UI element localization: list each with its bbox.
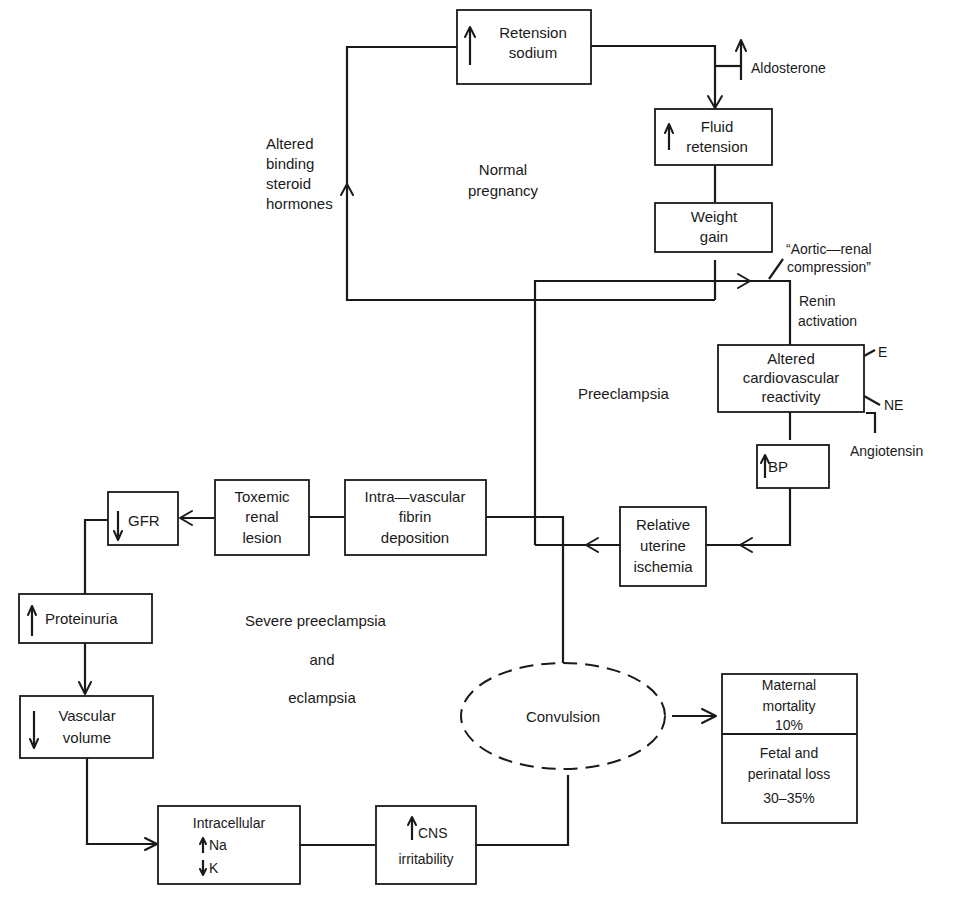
node-fibrin-deposition: Intra—vascular fibrin deposition	[345, 480, 486, 555]
e-label: E	[878, 344, 887, 360]
svg-text:ischemia: ischemia	[633, 558, 693, 575]
svg-text:Vascular: Vascular	[58, 707, 115, 724]
aortic-renal-label: “Aortic—renal	[786, 241, 872, 257]
node-intracellular: Intracellular Na K	[158, 806, 300, 884]
svg-text:10%: 10%	[775, 717, 803, 733]
svg-text:Intracellular: Intracellular	[193, 815, 266, 831]
aldosterone-label: Aldosterone	[751, 60, 826, 76]
svg-text:BP: BP	[768, 458, 788, 475]
svg-text:Fetal and: Fetal and	[760, 745, 818, 761]
svg-text:Na: Na	[209, 837, 227, 853]
svg-text:compression”: compression”	[787, 259, 871, 275]
arrowheads	[79, 40, 752, 850]
svg-text:retension: retension	[686, 138, 748, 155]
svg-text:volume: volume	[63, 729, 111, 746]
svg-text:reactivity: reactivity	[761, 388, 821, 405]
svg-text:and: and	[309, 651, 334, 668]
node-fluid-retension: Fluid retension	[655, 109, 772, 165]
node-altered-cardiovascular: Altered cardiovascular reactivity	[718, 345, 864, 412]
svg-text:irritability: irritability	[398, 851, 453, 867]
region-normal-pregnancy: Normal	[479, 161, 527, 178]
node-toxemic-renal-lesion: Toxemic renal lesion	[215, 480, 309, 555]
region-labels: Normal pregnancy Preeclampsia Severe pre…	[245, 161, 670, 706]
svg-text:binding: binding	[266, 155, 314, 172]
svg-text:CNS: CNS	[418, 825, 448, 841]
ne-label: NE	[884, 397, 903, 413]
node-uterine-ischemia: Relative uterine ischemia	[620, 507, 706, 586]
svg-text:Maternal: Maternal	[762, 677, 816, 693]
region-severe: Severe preeclampsia	[245, 612, 387, 629]
steroid-label: Altered	[266, 135, 314, 152]
svg-text:activation: activation	[798, 313, 857, 329]
svg-text:mortality: mortality	[763, 698, 816, 714]
svg-text:Toxemic: Toxemic	[234, 488, 290, 505]
svg-text:eclampsia: eclampsia	[288, 689, 356, 706]
svg-text:Proteinuria: Proteinuria	[45, 610, 118, 627]
node-gfr: GFR	[108, 492, 178, 545]
node-bp: BP	[757, 445, 829, 488]
svg-text:30–35%: 30–35%	[763, 790, 814, 806]
svg-text:sodium: sodium	[509, 44, 557, 61]
svg-text:gain: gain	[700, 228, 728, 245]
svg-text:Relative: Relative	[636, 516, 690, 533]
node-retension-sodium: Retension sodium	[457, 10, 591, 84]
region-preeclampsia: Preeclampsia	[578, 385, 670, 402]
svg-text:perinatal loss: perinatal loss	[748, 766, 831, 782]
svg-text:Altered: Altered	[767, 350, 815, 367]
svg-text:hormones: hormones	[266, 195, 333, 212]
svg-text:renal: renal	[245, 508, 278, 525]
preeclampsia-pathophysiology-diagram: Retension sodium Fluid retension Weight …	[0, 0, 959, 902]
svg-text:Fluid: Fluid	[701, 118, 734, 135]
svg-text:uterine: uterine	[640, 537, 686, 554]
svg-text:deposition: deposition	[381, 529, 449, 546]
svg-text:Weight: Weight	[691, 208, 738, 225]
svg-text:Intra—vascular: Intra—vascular	[365, 488, 466, 505]
node-proteinuria: Proteinuria	[19, 594, 152, 643]
svg-text:fibrin: fibrin	[399, 508, 432, 525]
svg-text:lesion: lesion	[242, 529, 281, 546]
node-weight-gain: Weight gain	[655, 203, 772, 252]
svg-text:cardiovascular: cardiovascular	[743, 369, 840, 386]
node-convulsion: Convulsion	[461, 663, 665, 769]
svg-text:Convulsion: Convulsion	[526, 708, 600, 725]
svg-text:K: K	[209, 860, 219, 876]
svg-text:GFR: GFR	[128, 512, 160, 529]
node-vascular-volume: Vascular volume	[20, 696, 153, 758]
svg-text:steroid: steroid	[266, 175, 311, 192]
node-outcomes: Maternal mortality 10% Fetal and perinat…	[722, 674, 857, 823]
angiotensin-label: Angiotensin	[850, 443, 923, 459]
node-cns-irritability: CNS irritability	[376, 806, 476, 884]
renin-label: Renin	[799, 293, 836, 309]
svg-text:pregnancy: pregnancy	[468, 182, 539, 199]
svg-text:Retension: Retension	[499, 24, 567, 41]
